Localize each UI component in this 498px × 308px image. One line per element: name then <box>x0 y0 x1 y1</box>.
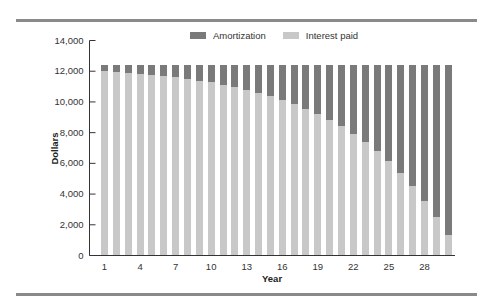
interest-segment <box>125 73 132 256</box>
x-tick-label: 13 <box>237 261 257 272</box>
amortization-segment <box>137 65 144 74</box>
amortization-segment <box>326 65 333 120</box>
bar-year-3 <box>125 65 132 256</box>
amortization-segment <box>125 65 132 73</box>
bar-year-21 <box>338 65 345 256</box>
bar-year-27 <box>409 65 416 256</box>
interest-segment <box>279 100 286 256</box>
bar-year-7 <box>172 65 179 256</box>
interest-segment <box>113 72 120 256</box>
bar-year-30 <box>445 65 452 256</box>
bar-year-24 <box>374 65 381 256</box>
interest-segment <box>231 87 238 256</box>
bar-year-19 <box>314 65 321 256</box>
bar-year-11 <box>220 65 227 256</box>
interest-segment <box>208 82 215 255</box>
amortization-segment <box>409 65 416 186</box>
x-tick-label: 4 <box>130 261 150 272</box>
bar-year-13 <box>243 65 250 256</box>
y-tick-label: 0 <box>40 250 84 261</box>
interest-segment <box>445 235 452 255</box>
x-tick-label: 1 <box>95 261 115 272</box>
amortization-segment <box>243 65 250 90</box>
bar-year-4 <box>137 65 144 256</box>
x-tick-label: 19 <box>308 261 328 272</box>
amortization-segment <box>208 65 215 83</box>
interest-segment <box>220 85 227 256</box>
interest-segment <box>184 79 191 256</box>
amortization-segment <box>421 65 428 201</box>
amortization-segment <box>267 65 274 96</box>
bar-year-6 <box>160 65 167 256</box>
bar-year-20 <box>326 65 333 256</box>
x-axis-title: Year <box>262 273 282 284</box>
bottom-rule <box>16 293 477 296</box>
amortization-segment <box>314 65 321 114</box>
amortization-segment <box>445 65 452 235</box>
interest-segment <box>350 134 357 256</box>
interest-segment <box>148 75 155 256</box>
bar-year-18 <box>302 65 309 256</box>
interest-segment <box>397 173 404 255</box>
interest-segment <box>433 217 440 256</box>
interest-segment <box>385 161 392 255</box>
amortization-segment <box>362 65 369 142</box>
amortization-segment <box>160 65 167 76</box>
interest-segment <box>362 142 369 256</box>
amortization-segment <box>338 65 345 126</box>
bar-year-5 <box>148 65 155 256</box>
interest-segment <box>374 151 381 255</box>
interest-segment <box>196 81 203 256</box>
bar-year-14 <box>255 65 262 256</box>
x-tick-label: 22 <box>343 261 363 272</box>
amortization-segment <box>374 65 381 151</box>
y-tick-label: 6,000 <box>40 157 84 168</box>
bar-year-2 <box>113 65 120 256</box>
amortization-segment <box>279 65 286 100</box>
bar-year-29 <box>433 65 440 256</box>
amortization-segment <box>397 65 404 173</box>
y-tick-label: 12,000 <box>40 65 84 76</box>
amortization-segment <box>302 65 309 109</box>
interest-segment <box>314 114 321 256</box>
amortization-segment <box>196 65 203 81</box>
amortization-segment <box>220 65 227 85</box>
bar-year-22 <box>350 65 357 256</box>
interest-segment <box>326 120 333 256</box>
bar-year-17 <box>291 65 298 256</box>
x-tick-label: 16 <box>272 261 292 272</box>
bar-year-1 <box>101 65 108 256</box>
bar-year-15 <box>267 65 274 256</box>
y-tick-label: 4,000 <box>40 188 84 199</box>
interest-segment <box>172 77 179 255</box>
interest-segment <box>243 90 250 256</box>
bar-year-16 <box>279 65 286 256</box>
bar-year-10 <box>208 65 215 256</box>
interest-segment <box>409 186 416 255</box>
amortization-segment <box>385 65 392 162</box>
x-tick-label: 25 <box>379 261 399 272</box>
x-tick-label: 10 <box>201 261 221 272</box>
y-tick-label: 8,000 <box>40 127 84 138</box>
interest-segment <box>255 93 262 256</box>
amortization-segment <box>113 65 120 72</box>
bar-year-9 <box>196 65 203 256</box>
interest-segment <box>101 71 108 255</box>
amortization-segment <box>172 65 179 78</box>
amortization-segment <box>433 65 440 217</box>
amortization-segment <box>231 65 238 87</box>
y-tick-label: 10,000 <box>40 96 84 107</box>
bar-year-8 <box>184 65 191 256</box>
amortization-segment <box>291 65 298 104</box>
bar-year-28 <box>421 65 428 256</box>
interest-segment <box>291 104 298 256</box>
stacked-bar-chart: Year Dollars 02,0004,0006,0008,00010,000… <box>0 0 498 308</box>
bar-year-12 <box>231 65 238 256</box>
amortization-segment <box>184 65 191 79</box>
interest-segment <box>160 76 167 255</box>
bar-year-25 <box>385 65 392 256</box>
bar-year-26 <box>397 65 404 256</box>
x-tick-label: 28 <box>414 261 434 272</box>
x-tick-label: 7 <box>166 261 186 272</box>
interest-segment <box>338 126 345 255</box>
